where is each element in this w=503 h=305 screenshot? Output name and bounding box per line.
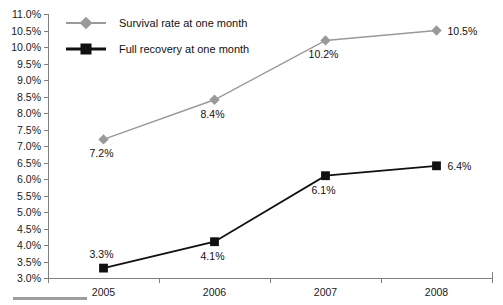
y-axis-label: 5.5%: [17, 190, 41, 201]
data-label: 10.2%: [309, 49, 339, 60]
data-label: 7.2%: [90, 148, 114, 159]
y-axis-label: 5.0%: [17, 207, 41, 218]
chart-screenshot: 11.0%10.5%10.0%9.5%9.0%8.5%8.0%7.5%7.0%6…: [0, 0, 503, 305]
data-label: 8.4%: [201, 109, 225, 120]
diamond-marker-icon: [80, 17, 93, 30]
y-axis-label: 6.5%: [17, 157, 41, 168]
y-axis-label: 3.0%: [17, 273, 41, 284]
plot-area: 11.0%10.5%10.0%9.5%9.0%8.5%8.0%7.5%7.0%6…: [48, 14, 492, 278]
square-marker-icon: [81, 44, 92, 55]
data-point-marker: [320, 35, 330, 45]
legend-key-square-icon: [66, 42, 106, 56]
x-axis-label: 2005: [92, 287, 115, 298]
x-axis-label: 2008: [425, 287, 448, 298]
chart-legend: Survival rate at one month Full recovery…: [66, 16, 249, 56]
y-axis-label: 10.0%: [11, 42, 41, 53]
y-axis-label: 8.5%: [17, 91, 41, 102]
y-axis-label: 9.0%: [17, 75, 41, 86]
y-axis-label: 7.0%: [17, 141, 41, 152]
data-label: 4.1%: [201, 251, 225, 262]
y-axis-label: 3.5%: [17, 256, 41, 267]
data-label: 6.1%: [312, 185, 336, 196]
x-axis-label: 2006: [203, 287, 226, 298]
x-axis-label: 2007: [314, 287, 337, 298]
data-point-marker: [431, 25, 441, 35]
data-point-marker: [321, 171, 330, 180]
y-axis-label: 6.0%: [17, 174, 41, 185]
data-label: 10.5%: [448, 25, 478, 36]
y-axis-label: 10.5%: [11, 25, 41, 36]
legend-label-survival-rate: Survival rate at one month: [119, 18, 247, 29]
legend-item-full-recovery: Full recovery at one month: [66, 42, 249, 56]
data-label: 3.3%: [90, 249, 114, 260]
legend-key-diamond-icon: [66, 16, 106, 30]
y-axis-label: 7.5%: [17, 124, 41, 135]
data-point-marker: [210, 237, 219, 246]
y-axis-label: 4.0%: [17, 240, 41, 251]
legend-item-survival-rate: Survival rate at one month: [66, 16, 249, 30]
y-axis-label: 8.0%: [17, 108, 41, 119]
x-axis-tick: [492, 278, 493, 283]
bottom-gray-bar: [13, 297, 87, 300]
legend-label-full-recovery: Full recovery at one month: [119, 44, 249, 55]
data-point-marker: [209, 95, 219, 105]
data-point-marker: [98, 134, 108, 144]
y-axis-label: 11.0%: [12, 9, 41, 20]
data-point-marker: [432, 161, 441, 170]
data-point-marker: [99, 264, 108, 273]
y-axis-label: 9.5%: [17, 58, 41, 69]
y-axis-label: 4.5%: [17, 223, 41, 234]
series-line-1: [104, 166, 437, 268]
data-label: 6.4%: [448, 161, 472, 172]
